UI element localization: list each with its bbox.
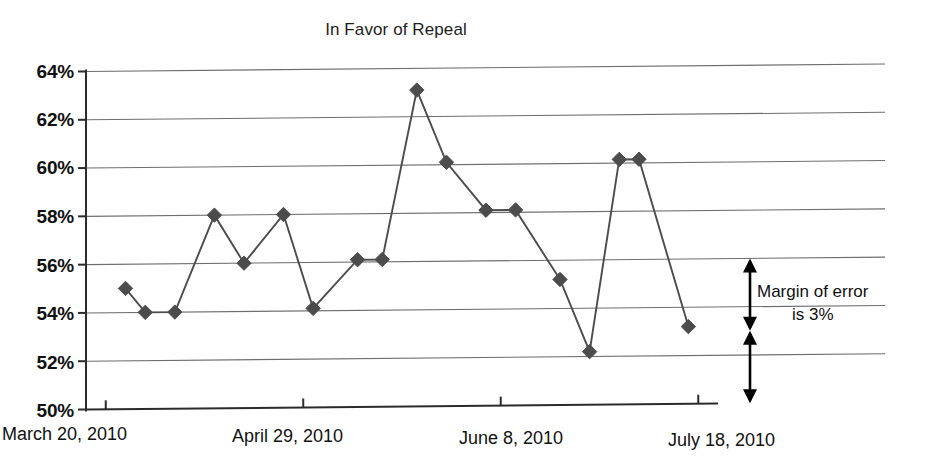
gridline-62 [86, 112, 885, 120]
data-line-group [126, 90, 689, 352]
gridline-56 [86, 257, 885, 265]
data-point-9 [410, 83, 424, 97]
moe-arrow-head-lower-1 [743, 389, 757, 403]
data-point-3 [207, 208, 221, 222]
gridline-52 [86, 354, 885, 362]
margin-of-error-arrows-group [743, 258, 757, 403]
data-point-2 [168, 305, 182, 319]
gridline-60 [86, 161, 885, 169]
data-line [126, 90, 689, 352]
data-point-16 [632, 152, 646, 166]
moe-arrow-head-upper-0 [743, 258, 757, 272]
plot-area [0, 0, 932, 474]
y-tick-marks-group [78, 72, 86, 410]
gridline-54 [86, 305, 885, 313]
data-point-8 [375, 252, 389, 266]
data-point-13 [553, 272, 567, 286]
gridline-64 [86, 64, 885, 72]
data-point-12 [508, 203, 522, 217]
moe-arrow-head-upper-1 [743, 317, 757, 331]
data-point-15 [612, 152, 626, 166]
moe-arrow-head-lower-0 [743, 331, 757, 345]
data-point-17 [681, 319, 695, 333]
chart-container: In Favor of Repeal 64% 62% 60% 58% 56% 5… [0, 0, 932, 474]
x-axis-line [86, 404, 718, 410]
